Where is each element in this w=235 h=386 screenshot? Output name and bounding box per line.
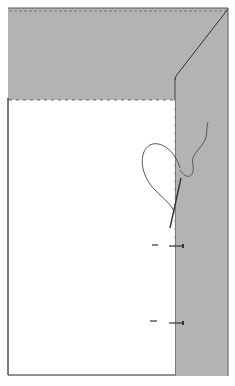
- sewing-diagram: [0, 0, 235, 386]
- fabric-panel: [8, 100, 175, 376]
